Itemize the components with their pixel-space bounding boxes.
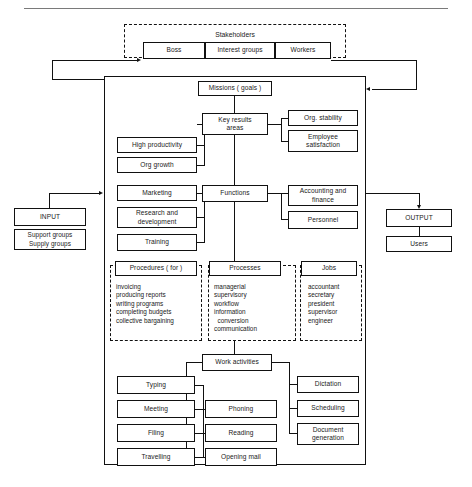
- work-activity-reading-label: Reading: [228, 429, 253, 437]
- feedback-left-vertical: [52, 60, 53, 80]
- input-detail-text: Support groups Supply groups: [28, 231, 73, 248]
- key-result-org-stability-label: Org. stability: [304, 114, 342, 122]
- input-arrowhead: [99, 191, 103, 195]
- feedback-right-top: [331, 60, 417, 61]
- work-activity-opening-mail-box[interactable]: Opening mail: [205, 448, 277, 466]
- output-users-box[interactable]: Users: [386, 236, 452, 252]
- stakeholder-workers-label: Workers: [291, 46, 316, 54]
- stakeholder-interest-groups-label: Interest groups: [217, 46, 262, 54]
- feedback-left-top: [52, 60, 138, 61]
- work-activity-scheduling-label: Scheduling: [311, 404, 344, 412]
- work-activity-typing-box[interactable]: Typing: [117, 376, 195, 394]
- work-activity-filing-label: Filing: [148, 429, 164, 437]
- key-result-high-productivity-label: High productivity: [132, 141, 182, 149]
- work-activity-dictation-label: Dictation: [315, 380, 341, 388]
- work-activity-travelling-label: Travelling: [141, 453, 170, 461]
- input-riser: [49, 193, 50, 209]
- stakeholder-boss-label: Boss: [167, 46, 182, 54]
- work-activity-document-generation-box[interactable]: Document generation: [297, 423, 359, 445]
- function-personnel-label: Personnel: [308, 216, 338, 224]
- wa-middle-bus: [203, 385, 204, 458]
- functions-label: Functions: [220, 189, 249, 197]
- jobs-box[interactable]: Jobs: [301, 261, 357, 276]
- key-result-org-growth-label: Org growth: [140, 161, 173, 169]
- processes-label: Processes: [229, 264, 261, 272]
- diagram-canvas: Stakeholders Boss Interest groups Worker…: [0, 0, 472, 487]
- function-accounting-finance-box[interactable]: Accounting and finance: [288, 185, 358, 206]
- stakeholder-interest-groups-box[interactable]: Interest groups: [205, 42, 275, 59]
- work-activity-phoning-box[interactable]: Phoning: [205, 400, 277, 418]
- missions-label: Missions ( goals ): [209, 84, 262, 92]
- procedures-items: invoicing producing reports writing prog…: [116, 283, 174, 325]
- function-training-label: Training: [145, 238, 169, 246]
- jobs-items: accountant secretary president superviso…: [308, 283, 339, 325]
- wa-left-bus-join: [186, 362, 203, 363]
- work-activity-meeting-box[interactable]: Meeting: [117, 400, 195, 418]
- function-marketing-box[interactable]: Marketing: [117, 185, 197, 201]
- spine-key-results-to-functions: [234, 135, 235, 185]
- work-activity-dictation-box[interactable]: Dictation: [297, 376, 359, 393]
- input-detail-box[interactable]: Support groups Supply groups: [14, 229, 86, 250]
- feedback-right-vertical: [416, 60, 417, 90]
- stakeholder-boss-box[interactable]: Boss: [143, 42, 205, 59]
- processes-items: managerial supervisory workflow informat…: [214, 283, 257, 333]
- output-users-connector: [419, 227, 420, 236]
- page-top-rule: [24, 8, 448, 9]
- key-result-employee-satisfaction-box[interactable]: Employee satisfaction: [288, 130, 358, 152]
- function-personnel-box[interactable]: Personnel: [288, 211, 358, 229]
- kr-right-bus: [281, 118, 282, 142]
- function-research-development-label: Research and development: [136, 209, 178, 225]
- key-results-areas-label: Key results areas: [218, 116, 252, 132]
- stakeholders-label: Stakeholders: [124, 31, 346, 38]
- work-activity-document-generation-label: Document generation: [312, 426, 344, 442]
- stakeholder-workers-box[interactable]: Workers: [275, 42, 331, 59]
- wa-right-join: [272, 362, 290, 363]
- work-activity-opening-mail-label: Opening mail: [221, 453, 261, 461]
- work-activity-scheduling-box[interactable]: Scheduling: [297, 400, 359, 417]
- key-result-org-stability-box[interactable]: Org. stability: [288, 110, 358, 126]
- work-activities-label: Work activities: [215, 358, 259, 366]
- key-result-employee-satisfaction-label: Employee satisfaction: [306, 133, 340, 149]
- work-activity-meeting-label: Meeting: [144, 405, 168, 413]
- functions-box[interactable]: Functions: [202, 185, 268, 202]
- kr-right-join: [268, 124, 282, 125]
- feedback-right-arrowhead: [366, 87, 370, 91]
- procedures-label: Procedures ( for ): [130, 264, 183, 272]
- output-connector: [366, 193, 420, 194]
- fn-right-join: [268, 193, 282, 194]
- output-box[interactable]: OUTPUT: [386, 209, 452, 227]
- function-accounting-finance-label: Accounting and finance: [300, 187, 347, 203]
- function-marketing-label: Marketing: [142, 189, 172, 197]
- input-box[interactable]: INPUT: [14, 208, 86, 226]
- work-activity-travelling-box[interactable]: Travelling: [117, 448, 195, 466]
- feedback-right-bottom: [372, 89, 417, 90]
- function-research-development-box[interactable]: Research and development: [117, 207, 197, 228]
- work-activity-reading-box[interactable]: Reading: [205, 424, 277, 442]
- key-results-areas-box[interactable]: Key results areas: [202, 113, 268, 135]
- spine-functions-to-processes: [234, 202, 235, 262]
- work-activities-box[interactable]: Work activities: [202, 354, 272, 371]
- jobs-label: Jobs: [322, 264, 336, 272]
- key-result-org-growth-box[interactable]: Org growth: [117, 157, 197, 173]
- wa-right-bus: [289, 362, 290, 434]
- work-activity-filing-box[interactable]: Filing: [117, 424, 195, 442]
- work-activity-typing-label: Typing: [146, 381, 166, 389]
- feedback-left-arrowhead: [137, 58, 141, 62]
- feedback-left-bottom: [52, 79, 105, 80]
- key-result-high-productivity-box[interactable]: High productivity: [117, 137, 197, 153]
- input-connector: [49, 193, 99, 194]
- function-training-box[interactable]: Training: [117, 234, 197, 251]
- input-label: INPUT: [40, 213, 60, 221]
- spine-missions-to-key-results: [234, 96, 235, 113]
- output-label: OUTPUT: [405, 214, 433, 222]
- processes-box[interactable]: Processes: [209, 261, 281, 276]
- fn-right-bus: [281, 193, 282, 220]
- procedures-box[interactable]: Procedures ( for ): [115, 261, 197, 276]
- missions-box[interactable]: Missions ( goals ): [198, 81, 272, 96]
- output-users-label: Users: [410, 240, 428, 248]
- work-activity-phoning-label: Phoning: [229, 405, 254, 413]
